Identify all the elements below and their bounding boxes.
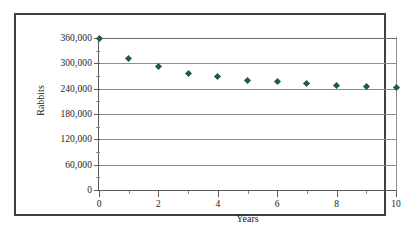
y-axis-minor-tick xyxy=(96,177,100,178)
x-axis-title: Years xyxy=(99,213,396,224)
x-axis-minor-tick xyxy=(366,191,367,194)
data-point-marker xyxy=(185,69,192,76)
data-point-marker xyxy=(303,80,310,87)
gridline xyxy=(99,139,396,140)
y-axis-tick-label: 360,000 xyxy=(60,33,92,43)
y-axis-minor-tick xyxy=(96,152,100,153)
x-axis-tick xyxy=(277,191,278,197)
x-axis-tick-label: 10 xyxy=(391,199,401,209)
chart-outer-frame: Rabbits 060,000120,000180,000240,000300,… xyxy=(14,13,386,216)
data-point-marker xyxy=(244,77,251,84)
x-axis-tick-label: 0 xyxy=(97,199,102,209)
x-axis-minor-tick xyxy=(307,191,308,194)
data-point-marker xyxy=(125,55,132,62)
y-axis-minor-tick xyxy=(96,76,100,77)
y-axis-tick-label: 60,000 xyxy=(65,160,92,170)
x-axis-tick xyxy=(218,191,219,197)
x-axis-minor-tick xyxy=(188,191,189,194)
gridline xyxy=(99,89,396,90)
x-axis-minor-tick xyxy=(129,191,130,194)
x-axis-tick xyxy=(158,191,159,197)
y-axis-tick-label: 240,000 xyxy=(60,84,92,94)
y-axis-tick-label: 180,000 xyxy=(60,109,92,119)
y-axis-tick-label: 0 xyxy=(87,185,92,195)
y-axis-tick xyxy=(94,139,100,140)
plot-area xyxy=(99,38,396,190)
gridline xyxy=(99,38,396,39)
y-axis-minor-tick xyxy=(96,101,100,102)
x-axis-tick xyxy=(337,191,338,197)
y-axis-tick-label: 300,000 xyxy=(60,58,92,68)
y-axis-tick xyxy=(94,165,100,166)
gridline xyxy=(99,165,396,166)
y-axis-minor-tick xyxy=(96,51,100,52)
x-axis-tick xyxy=(99,191,100,197)
data-point-marker xyxy=(392,84,399,91)
y-axis-tick xyxy=(94,114,100,115)
y-axis-tick-label: 120,000 xyxy=(60,134,92,144)
data-point-marker xyxy=(214,73,221,80)
x-axis-minor-tick xyxy=(248,191,249,194)
x-axis-tick-label: 8 xyxy=(334,199,339,209)
y-axis-tick xyxy=(94,89,100,90)
y-axis-tick-labels: 060,000120,000180,000240,000300,000360,0… xyxy=(16,38,92,190)
plot-right-edge xyxy=(396,37,397,191)
y-axis-tick xyxy=(94,63,100,64)
x-axis-tick xyxy=(396,191,397,197)
gridline xyxy=(99,114,396,115)
x-axis-tick-label: 2 xyxy=(156,199,161,209)
data-point-marker xyxy=(95,34,102,41)
x-axis-ticks xyxy=(99,191,396,199)
x-axis-tick-label: 6 xyxy=(275,199,280,209)
x-axis-tick-labels: 0246810 xyxy=(99,199,396,213)
data-point-marker xyxy=(274,78,281,85)
y-axis-minor-tick xyxy=(96,127,100,128)
gridline xyxy=(99,63,396,64)
x-axis-tick-label: 4 xyxy=(215,199,220,209)
